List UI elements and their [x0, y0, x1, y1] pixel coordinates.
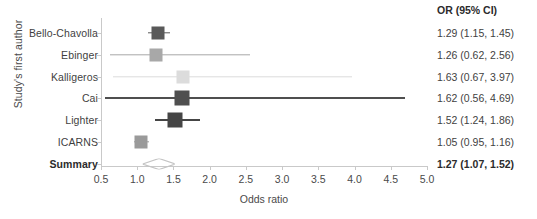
- x-tick-mark: [355, 166, 356, 170]
- x-tick-label: 5.0: [420, 173, 435, 185]
- or-value-kalligeros: 1.63 (0.67, 3.97): [437, 71, 514, 83]
- summary-diamond: [142, 158, 175, 169]
- point-estimate-box: [167, 113, 182, 128]
- x-tick-mark: [246, 166, 247, 170]
- x-tick-mark: [427, 166, 428, 170]
- x-tick-mark: [391, 166, 392, 170]
- x-tick-label: 2.5: [239, 173, 254, 185]
- or-column-header: OR (95% CI): [437, 4, 497, 16]
- study-label-kalligeros: Kalligeros: [16, 71, 98, 83]
- y-axis-spine: [101, 18, 102, 166]
- study-label-icarns: ICARNS: [16, 136, 98, 148]
- study-label-summary: Summary: [16, 158, 98, 170]
- point-estimate-box: [150, 48, 163, 61]
- y-tick-mark: [97, 98, 101, 99]
- x-tick-label: 3.5: [311, 173, 326, 185]
- study-label-cai: Cai: [16, 92, 98, 104]
- forest-plot: Study's first author Bello-ChavollaEbing…: [0, 0, 537, 219]
- or-value-cai: 1.62 (0.56, 4.69): [437, 92, 514, 104]
- confidence-interval-line: [110, 54, 251, 55]
- x-tick-label: 1.5: [166, 173, 181, 185]
- x-tick-label: 0.5: [94, 173, 109, 185]
- point-estimate-box: [152, 27, 165, 40]
- or-value-icarns: 1.05 (0.95, 1.16): [437, 136, 514, 148]
- point-estimate-box: [134, 136, 147, 149]
- point-estimate-box: [176, 70, 189, 83]
- x-tick-label: 4.5: [383, 173, 398, 185]
- or-value-summary: 1.27 (1.07, 1.52): [437, 158, 514, 170]
- point-estimate-box: [175, 91, 190, 106]
- study-label-bello-chavolla: Bello-Chavolla: [16, 27, 98, 39]
- x-axis-title: Odds ratio: [101, 193, 427, 205]
- x-tick-mark: [318, 166, 319, 170]
- y-tick-mark: [97, 77, 101, 78]
- x-tick-label: 1.0: [130, 173, 145, 185]
- study-label-column: Bello-ChavollaEbingerKalligerosCaiLighte…: [16, 0, 98, 219]
- y-tick-mark: [97, 55, 101, 56]
- plot-panel: Odds ratio 0.51.01.52.02.53.03.54.04.55.…: [101, 18, 431, 166]
- x-tick-label: 4.0: [347, 173, 362, 185]
- x-tick-label: 3.0: [275, 173, 290, 185]
- or-value-column: OR (95% CI) 1.29 (1.15, 1.45)1.26 (0.62,…: [437, 0, 537, 219]
- confidence-interval-line: [113, 76, 352, 77]
- or-value-ebinger: 1.26 (0.62, 2.56): [437, 49, 514, 61]
- y-tick-mark: [97, 142, 101, 143]
- y-tick-mark: [97, 120, 101, 121]
- y-tick-mark: [97, 33, 101, 34]
- x-tick-mark: [137, 166, 138, 170]
- x-tick-mark: [210, 166, 211, 170]
- x-tick-mark: [101, 166, 102, 170]
- x-tick-mark: [282, 166, 283, 170]
- confidence-interval-line: [105, 97, 404, 99]
- x-tick-label: 2.0: [202, 173, 217, 185]
- or-value-bello-chavolla: 1.29 (1.15, 1.45): [437, 27, 514, 39]
- study-label-ebinger: Ebinger: [16, 49, 98, 61]
- y-tick-mark: [97, 164, 101, 165]
- or-value-lighter: 1.52 (1.24, 1.86): [437, 114, 514, 126]
- study-label-lighter: Lighter: [16, 114, 98, 126]
